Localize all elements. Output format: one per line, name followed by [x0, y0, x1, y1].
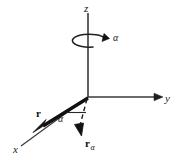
z-axis-label: z: [84, 3, 88, 14]
y-axis-label: y: [165, 93, 170, 104]
projected-angle-label: α: [58, 114, 63, 124]
vector-r-alpha-subscript: α: [90, 143, 94, 152]
x-axis-label: x: [13, 144, 18, 155]
vector-r-alpha-label: rα: [85, 138, 95, 152]
y-axis-arrowhead: [154, 93, 163, 101]
vector-r-label: r: [36, 108, 41, 119]
rotation-angle-label: α: [113, 33, 118, 43]
rotation-diagram: z α y x r α rα: [0, 0, 178, 163]
rotation-arc-arrowhead: [102, 34, 110, 42]
vector-r-alpha-arrowhead: [75, 123, 84, 136]
